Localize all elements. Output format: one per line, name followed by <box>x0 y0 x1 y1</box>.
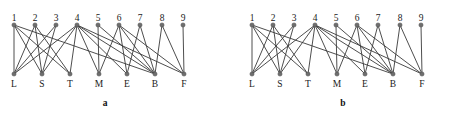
graph-edge <box>98 25 99 74</box>
graph-panel-b: 123456789LSTMEBFb <box>238 0 473 117</box>
graph-node-2[interactable] <box>271 23 275 27</box>
graph-node-5[interactable] <box>96 23 100 27</box>
graph-panel-a: 123456789LSTMEBFa <box>0 0 235 117</box>
graph-edge <box>35 25 70 74</box>
graph-edge <box>14 25 70 74</box>
graph-node-1[interactable] <box>12 23 16 27</box>
graph-edge <box>308 25 315 74</box>
top-node-label-4: 4 <box>305 13 325 23</box>
graph-edge <box>357 25 393 74</box>
graph-node-L[interactable] <box>12 72 16 76</box>
graph-edge <box>35 25 42 74</box>
graph-node-8[interactable] <box>160 23 164 27</box>
graph-node-5[interactable] <box>334 23 338 27</box>
graph-edge <box>162 25 184 74</box>
graph-node-S[interactable] <box>278 72 282 76</box>
bottom-node-label-F: F <box>412 79 432 89</box>
bottom-node-label-E: E <box>355 79 375 89</box>
bottom-node-label-L: L <box>242 79 262 89</box>
graph-node-8[interactable] <box>398 23 402 27</box>
graph-node-M[interactable] <box>335 72 339 76</box>
graph-node-B[interactable] <box>153 72 157 76</box>
top-node-label-7: 7 <box>130 13 150 23</box>
graph-edge <box>421 25 422 74</box>
graph-edge <box>77 25 184 74</box>
graph-node-B[interactable] <box>391 72 395 76</box>
graph-node-T[interactable] <box>306 72 310 76</box>
graph-node-3[interactable] <box>292 23 296 27</box>
graph-node-6[interactable] <box>355 23 359 27</box>
graph-edge <box>336 25 337 74</box>
graph-edge <box>14 25 35 74</box>
graph-node-7[interactable] <box>376 23 380 27</box>
graph-node-7[interactable] <box>138 23 142 27</box>
bottom-node-label-S: S <box>270 79 290 89</box>
graph-edge <box>252 25 273 74</box>
graph-node-9[interactable] <box>419 23 423 27</box>
top-node-label-4: 4 <box>67 13 87 23</box>
top-node-label-9: 9 <box>173 13 193 23</box>
bottom-node-label-F: F <box>174 79 194 89</box>
graph-edge <box>14 25 42 74</box>
top-node-label-3: 3 <box>46 13 66 23</box>
graph-node-4[interactable] <box>75 23 79 27</box>
graph-node-M[interactable] <box>97 72 101 76</box>
graph-node-T[interactable] <box>68 72 72 76</box>
graph-node-3[interactable] <box>54 23 58 27</box>
bottom-node-label-T: T <box>298 79 318 89</box>
graph-node-9[interactable] <box>181 23 185 27</box>
graph-edge <box>252 25 308 74</box>
top-node-label-2: 2 <box>263 13 283 23</box>
graph-edge <box>42 25 56 74</box>
graph-node-4[interactable] <box>313 23 317 27</box>
bottom-node-label-B: B <box>145 79 165 89</box>
top-node-label-3: 3 <box>284 13 304 23</box>
edge-group <box>14 25 184 74</box>
graph-edge <box>315 25 422 74</box>
panel-caption-b: b <box>328 98 358 108</box>
top-node-label-9: 9 <box>411 13 431 23</box>
graph-node-S[interactable] <box>40 72 44 76</box>
panel-caption-a: a <box>90 98 120 108</box>
graph-node-E[interactable] <box>125 72 129 76</box>
top-node-label-1: 1 <box>4 13 24 23</box>
graph-edge <box>280 25 294 74</box>
top-node-label-8: 8 <box>390 13 410 23</box>
graph-edge <box>183 25 184 74</box>
graph-edge <box>14 25 77 74</box>
bottom-node-label-M: M <box>327 79 347 89</box>
graph-edge <box>70 25 77 74</box>
graph-node-6[interactable] <box>117 23 121 27</box>
bottom-node-label-B: B <box>383 79 403 89</box>
graph-edge <box>280 25 315 74</box>
graph-edge <box>119 25 155 74</box>
graph-edge <box>119 25 127 74</box>
top-node-label-2: 2 <box>25 13 45 23</box>
graph-node-E[interactable] <box>363 72 367 76</box>
top-node-label-1: 1 <box>242 13 262 23</box>
graph-node-1[interactable] <box>250 23 254 27</box>
graph-node-2[interactable] <box>33 23 37 27</box>
graph-edge <box>273 25 280 74</box>
bottom-node-label-L: L <box>4 79 24 89</box>
graph-node-F[interactable] <box>182 72 186 76</box>
graph-edge <box>252 25 315 74</box>
graph-edge <box>393 25 400 74</box>
graph-node-L[interactable] <box>250 72 254 76</box>
bottom-node-label-M: M <box>89 79 109 89</box>
top-node-label-7: 7 <box>368 13 388 23</box>
top-node-label-5: 5 <box>326 13 346 23</box>
graph-edge <box>140 25 155 74</box>
top-node-label-8: 8 <box>152 13 172 23</box>
graph-edge <box>336 25 393 74</box>
graph-edge <box>378 25 393 74</box>
bottom-node-label-T: T <box>60 79 80 89</box>
graph-edge <box>357 25 365 74</box>
graph-edge <box>155 25 162 74</box>
bottom-node-label-E: E <box>117 79 137 89</box>
graph-node-F[interactable] <box>420 72 424 76</box>
graph-edge <box>400 25 422 74</box>
graph-edge <box>252 25 280 74</box>
graph-edge <box>273 25 308 74</box>
bipartite-graph-figure: 123456789LSTMEBFa 123456789LSTMEBFb <box>0 0 475 117</box>
